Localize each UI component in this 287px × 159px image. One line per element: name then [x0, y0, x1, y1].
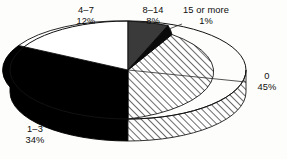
slice-label-1-3-percent: 34% — [14, 135, 56, 146]
slice-label-1-3-name: 1–3 — [14, 124, 56, 135]
slice-label-1-3: 1–3 34% — [14, 124, 56, 147]
slice-label-15-or-more-percent: 1% — [168, 16, 244, 27]
slice-label-4-7-percent: 12% — [64, 16, 108, 27]
slice-label-4-7: 4–7 12% — [64, 5, 108, 28]
slice-label-0-name: 0 — [250, 71, 284, 82]
slice-label-0: 0 45% — [250, 71, 284, 94]
pie-chart-figure: 4–7 12% 8–14 8% 15 or more 1% 0 45% 1–3 … — [0, 0, 287, 159]
slice-label-0-percent: 45% — [250, 82, 284, 93]
slice-label-15-or-more-name: 15 or more — [168, 5, 244, 16]
pie-top-face — [3, 21, 246, 119]
slice-label-15-or-more: 15 or more 1% — [168, 5, 244, 28]
slice-label-4-7-name: 4–7 — [64, 5, 108, 16]
